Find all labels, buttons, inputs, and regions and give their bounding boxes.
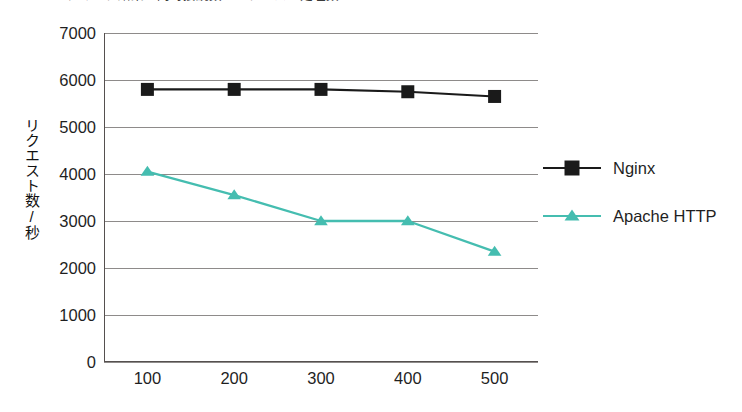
series-apache-http <box>141 166 502 256</box>
y-axis-tick-label: 5000 <box>50 119 96 135</box>
y-axis-tick-label: 4000 <box>50 166 96 182</box>
series-nginx <box>141 83 501 103</box>
plot-area <box>104 33 538 362</box>
y-axis-tick-label: 7000 <box>50 25 96 41</box>
data-point-marker <box>488 90 501 103</box>
legend-item-label: Apache HTTP <box>613 205 717 227</box>
y-axis-tick-label: 3000 <box>50 213 96 229</box>
x-axis-tick-labels: 100200300400500 <box>104 368 538 392</box>
y-axis-tick-label: 2000 <box>50 260 96 276</box>
y-axis-tick-label: 0 <box>50 354 96 370</box>
y-axis-tick-labels: 70006000500040003000200010000 <box>48 33 96 362</box>
data-point-marker <box>141 166 155 176</box>
y-axis-tick-label: 6000 <box>50 72 96 88</box>
series-line <box>147 172 494 252</box>
y-axis-tick-label: 1000 <box>50 307 96 323</box>
data-point-marker <box>315 83 328 96</box>
y-axis-title: リクエスト数/秒 <box>18 118 40 240</box>
legend-item[interactable]: Apache HTTP <box>541 196 737 244</box>
data-point-marker <box>141 83 154 96</box>
x-axis-tick-label: 200 <box>204 368 264 388</box>
legend-item[interactable]: Nginx <box>541 148 737 196</box>
data-point-marker <box>228 83 241 96</box>
chart-title: ベンチマーク結果：同時接続数とリクエスト処理数 <box>40 0 360 3</box>
x-axis-tick-label: 100 <box>117 368 177 388</box>
gridline <box>104 362 538 363</box>
line-chart: ベンチマーク結果：同時接続数とリクエスト処理数 リクエスト数/秒 7000600… <box>0 0 742 412</box>
x-axis-tick-label: 500 <box>465 368 525 388</box>
legend-item-label: Nginx <box>613 157 655 179</box>
legend-square-marker-icon <box>541 157 603 179</box>
x-axis-tick-label: 300 <box>291 368 351 388</box>
legend-triangle-marker-icon <box>541 205 603 227</box>
legend: NginxApache HTTP <box>541 148 737 244</box>
data-point-marker <box>401 85 414 98</box>
series-layer <box>104 33 538 362</box>
x-axis-tick-label: 400 <box>378 368 438 388</box>
